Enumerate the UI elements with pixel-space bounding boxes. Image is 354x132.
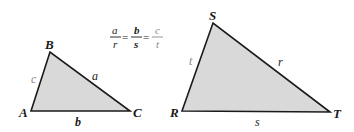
triangle-rst <box>182 23 330 112</box>
similar-triangles-diagram: A B C c a b a r = b s = c t R S T t r s <box>0 0 354 132</box>
fraction-1-numerator: a <box>112 24 118 36</box>
side-t-label: t <box>189 54 193 68</box>
equals-sign-2: = <box>143 31 149 43</box>
triangle-abc <box>31 52 130 111</box>
vertex-s-label: S <box>209 8 216 23</box>
fraction-3-denominator: t <box>156 38 160 50</box>
side-r-label: r <box>278 55 283 69</box>
diagram-canvas: A B C c a b a r = b s = c t R S T t r s <box>0 0 354 132</box>
vertex-b-label: B <box>44 37 54 52</box>
proportion-equation: a r = b s = c t <box>110 24 163 50</box>
side-b-label: b <box>75 115 81 129</box>
fraction-3-numerator: c <box>155 24 160 36</box>
vertex-a-label: A <box>18 105 28 120</box>
equals-sign-1: = <box>122 31 128 43</box>
side-a-label: a <box>92 69 98 83</box>
fraction-2-denominator: s <box>133 38 138 50</box>
side-c-label: c <box>31 72 37 86</box>
fraction-2-numerator: b <box>134 24 140 36</box>
side-s-label: s <box>255 115 260 129</box>
vertex-c-label: C <box>133 105 142 120</box>
fraction-1-denominator: r <box>113 38 118 50</box>
vertex-t-label: T <box>333 106 342 121</box>
vertex-r-label: R <box>169 105 179 120</box>
